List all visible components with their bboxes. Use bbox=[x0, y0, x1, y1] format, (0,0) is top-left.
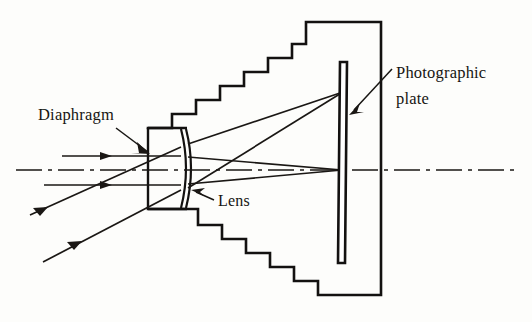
lens-rear-surface bbox=[181, 129, 186, 208]
ray-horizontal-lower-refracted bbox=[188, 170, 342, 184]
plate-leader-arrow bbox=[349, 103, 364, 115]
ray-horizontal-upper-arrow bbox=[100, 152, 112, 160]
ray-horizontal-upper-refracted bbox=[188, 157, 342, 170]
label-photographic-plate-line1: Photographic bbox=[396, 63, 486, 82]
label-diaphragm: Diaphragm bbox=[38, 105, 114, 124]
lens-element-group bbox=[181, 129, 191, 208]
callout-diaphragm bbox=[116, 128, 150, 154]
ray-oblique-lower bbox=[43, 190, 181, 262]
camera-optics-diagram: Diaphragm Lens Photographic plate bbox=[0, 0, 532, 322]
label-photographic-plate-line2: plate bbox=[396, 89, 429, 108]
callout-lens bbox=[191, 188, 214, 200]
ray-oblique-upper-arrow bbox=[33, 207, 48, 216]
callout-photographic-plate bbox=[349, 69, 392, 115]
photographic-plate bbox=[338, 62, 347, 263]
label-lens: Lens bbox=[218, 192, 250, 209]
ray-oblique-lower-refracted bbox=[188, 92, 343, 188]
figure-root: Diaphragm Lens Photographic plate bbox=[0, 0, 532, 322]
photographic-plate-group bbox=[338, 62, 347, 263]
